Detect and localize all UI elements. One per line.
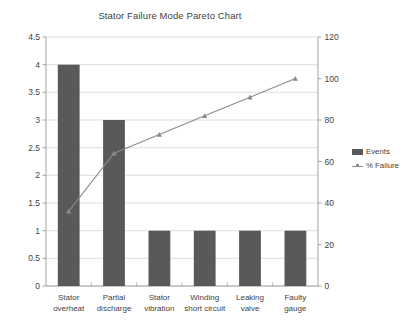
- left-axis: 00.511.522.533.544.5: [28, 32, 46, 291]
- right-axis: 020406080100120: [318, 32, 339, 291]
- svg-text:4: 4: [35, 60, 40, 70]
- legend-item-percent-failure: % Failure: [352, 159, 409, 173]
- category-label-4: Leaking: [236, 293, 264, 302]
- svg-text:3.5: 3.5: [28, 87, 40, 97]
- legend-line-marker-icon: [352, 163, 363, 170]
- category-label-0: Stator: [58, 293, 80, 302]
- category-label-1: discharge: [97, 304, 132, 313]
- plot-frame: [46, 37, 318, 286]
- svg-text:1.5: 1.5: [28, 198, 40, 208]
- svg-text:3: 3: [35, 115, 40, 125]
- svg-text:40: 40: [325, 198, 335, 208]
- line-series-percent-failure: [66, 76, 298, 214]
- category-label-5: gauge: [284, 304, 307, 313]
- legend-bar-swatch-icon: [352, 149, 363, 155]
- line-marker-3: [202, 113, 207, 118]
- bar-2: [149, 231, 171, 286]
- line-marker-5: [293, 76, 298, 81]
- category-label-3: short circuit: [184, 304, 226, 313]
- pareto-chart: Stator Failure Mode Pareto Chart 00.511.…: [0, 0, 409, 335]
- svg-text:60: 60: [325, 157, 335, 167]
- svg-text:2: 2: [35, 170, 40, 180]
- svg-text:0.5: 0.5: [28, 253, 40, 263]
- category-label-2: vibration: [144, 304, 174, 313]
- bar-4: [239, 231, 261, 286]
- category-label-0: overheat: [53, 304, 85, 313]
- svg-text:1: 1: [35, 226, 40, 236]
- svg-text:100: 100: [325, 74, 339, 84]
- legend-item-events: Events: [352, 145, 409, 159]
- category-label-3: Winding: [190, 293, 219, 302]
- bar-5: [285, 231, 307, 286]
- category-label-5: Faulty: [284, 293, 306, 302]
- svg-text:20: 20: [325, 240, 335, 250]
- svg-text:2.5: 2.5: [28, 143, 40, 153]
- svg-text:80: 80: [325, 115, 335, 125]
- svg-text:0: 0: [35, 281, 40, 291]
- category-label-1: Partial: [103, 293, 126, 302]
- legend-label-percent-failure: % Failure: [366, 162, 399, 170]
- svg-text:0: 0: [325, 281, 330, 291]
- category-axis-labels: StatoroverheatPartialdischargeStatorvibr…: [53, 293, 307, 313]
- chart-legend: Events % Failure: [352, 145, 409, 173]
- bar-0: [58, 65, 80, 286]
- category-label-2: Stator: [149, 293, 171, 302]
- chart-plot-area: 00.511.522.533.544.5 020406080100120 Sta…: [0, 0, 409, 335]
- legend-label-events: Events: [366, 148, 390, 156]
- bar-1: [103, 120, 125, 286]
- gridlines: [46, 37, 318, 286]
- svg-text:4.5: 4.5: [28, 32, 40, 42]
- category-label-4: valve: [241, 304, 260, 313]
- svg-text:120: 120: [325, 32, 339, 42]
- bar-3: [194, 231, 216, 286]
